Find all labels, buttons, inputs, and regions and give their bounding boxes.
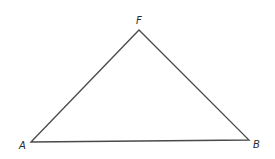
triangle-diagram: F A B xyxy=(0,0,275,159)
vertex-label-f: F xyxy=(136,15,142,26)
vertex-label-b: B xyxy=(253,139,260,150)
vertex-label-a: A xyxy=(18,140,26,151)
triangle-afb xyxy=(31,30,249,142)
